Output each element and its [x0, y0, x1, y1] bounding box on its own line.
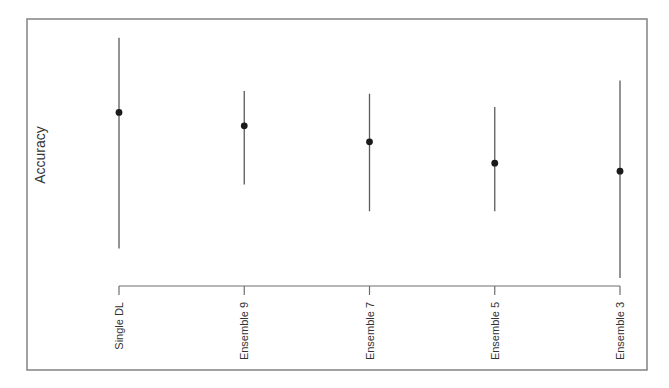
x-tick-labels: Single DLEnsemble 9Ensemble 7Ensemble 5E… [113, 302, 626, 360]
x-tick-label: Ensemble 3 [614, 302, 626, 360]
x-axis [119, 286, 620, 295]
x-tick-label: Ensemble 5 [489, 302, 501, 360]
data-marks [116, 38, 624, 278]
data-point [241, 122, 248, 129]
accuracy-chart: Accuracy Single DLEnsemble 9Ensemble 7En… [0, 0, 669, 388]
data-point [116, 109, 123, 116]
data-point [617, 168, 624, 175]
x-tick-label: Single DL [113, 302, 125, 350]
y-axis-label: Accuracy [32, 126, 48, 184]
x-tick-label: Ensemble 7 [364, 302, 376, 360]
x-tick-label: Ensemble 9 [238, 302, 250, 360]
data-point [366, 138, 373, 145]
data-point [491, 160, 498, 167]
